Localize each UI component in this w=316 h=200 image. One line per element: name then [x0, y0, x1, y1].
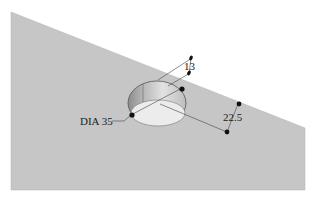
depth-dimension-label: 13 [184, 60, 196, 72]
diameter-dimension-label: DIA 35 [80, 115, 113, 127]
hole-floor [131, 100, 185, 126]
part-drawing: 13 DIA 35 22.5 [0, 0, 316, 200]
dimension-dot [129, 112, 134, 117]
dimension-dot [179, 86, 184, 91]
hole [128, 81, 186, 126]
dimension-dot [237, 102, 242, 107]
dimension-dot [225, 130, 230, 135]
offset-dimension-label: 22.5 [223, 111, 243, 123]
